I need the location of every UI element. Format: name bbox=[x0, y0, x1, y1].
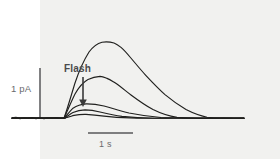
flash-arrow-head bbox=[79, 100, 87, 108]
trace-response-5 bbox=[12, 42, 244, 119]
trace-plot bbox=[0, 0, 280, 159]
flash-annotation-label: Flash bbox=[64, 63, 91, 74]
figure-container: 1 pA 1 s Flash bbox=[0, 0, 280, 159]
vertical-scalebar-label: 1 pA bbox=[11, 83, 31, 94]
horizontal-scalebar-label: 1 s bbox=[99, 139, 112, 149]
trace-response-3 bbox=[12, 104, 244, 119]
